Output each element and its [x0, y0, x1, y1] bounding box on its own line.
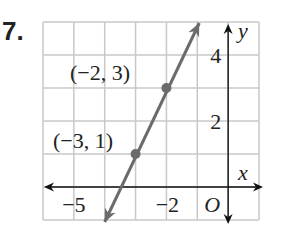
graph-line [105, 23, 200, 222]
point-label: (−2, 3) [70, 60, 130, 85]
x-axis-label: x [237, 160, 248, 185]
y-axis-label: y [236, 18, 248, 43]
line-arrow-icon [99, 208, 115, 225]
data-point [161, 83, 171, 93]
x-tick-label: −5 [62, 192, 85, 217]
x-tick-label: −2 [156, 192, 179, 217]
origin-label: O [204, 192, 220, 217]
y-tick-label: 4 [210, 43, 221, 68]
coordinate-graph: (−2, 3)(−3, 1)−5−242yxO [0, 0, 281, 234]
grid [43, 22, 259, 220]
data-point [131, 149, 141, 159]
point-label: (−3, 1) [53, 128, 113, 153]
y-tick-label: 2 [210, 109, 221, 134]
